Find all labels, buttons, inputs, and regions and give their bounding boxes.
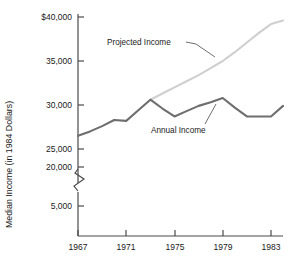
x-tick-label-1967: 1967 (69, 242, 88, 252)
y-tick-label-30000: 30,000 (46, 100, 72, 110)
x-tick-label-1979: 1979 (214, 242, 233, 252)
projected-income-line (150, 21, 283, 100)
y-tick-label-20000: 20,000 (46, 162, 72, 172)
axis-break-zigzag (74, 169, 84, 191)
annual-income-leader-line (205, 104, 216, 124)
y-tick-label-35000: 35,000 (46, 56, 72, 66)
projected-income-label: Projected Income (107, 38, 171, 47)
y-tick-label-40000: $40,000 (41, 12, 72, 22)
projected-income-leader-line (186, 42, 215, 57)
y-tick-label-25000: 25,000 (46, 144, 72, 154)
x-tick-label-1975: 1975 (166, 242, 185, 252)
y-tick-label-5000: 5,000 (51, 201, 73, 211)
x-tick-label-1971: 1971 (117, 242, 136, 252)
x-axis-ticks (78, 230, 271, 236)
annual-income-label: Annual Income (151, 126, 206, 135)
line-chart: Median Income (in 1984 Dollars) $40,000 … (0, 0, 289, 266)
y-axis-title: Median Income (in 1984 Dollars) (4, 101, 14, 228)
x-tick-label-1983: 1983 (262, 242, 281, 252)
chart-figure: Median Income (in 1984 Dollars) $40,000 … (0, 0, 289, 266)
